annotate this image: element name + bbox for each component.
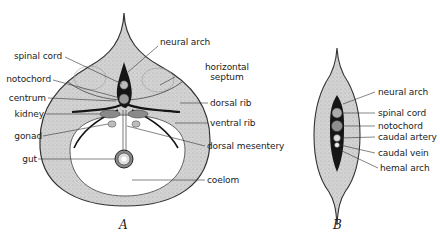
label-notochord-b: notochord [378,121,423,131]
notochord-shape [119,94,129,104]
kidney-left [100,110,120,118]
label-centrum: centrum [2,93,46,103]
gut-lumen [121,156,126,161]
caption-a: A [119,218,128,232]
label-dorsal-rib: dorsal rib [210,98,251,108]
vertebrate-cross-section-figure: spinal cord notochord centrum kidney gon… [0,0,440,241]
label-hemal-arch: hemal arch [380,163,430,173]
gonad-left [108,121,116,127]
label-ventral-rib: ventral rib [210,118,256,128]
kidney-right [128,110,148,118]
tail-spinal-cord [332,108,342,118]
spinal-cord-shape [120,81,128,89]
tail-notochord [332,121,343,132]
tail-caudal-artery [334,135,341,142]
label-notochord-a: notochord [2,74,51,84]
label-caudal-vein: caudal vein [378,148,429,158]
label-dorsal-mesentery: dorsal mesentery [207,141,284,151]
label-horizontal-septum: horizontal septum [205,62,249,82]
label-neural-arch-a: neural arch [160,37,210,47]
label-caudal-artery: caudal artery [378,132,437,142]
label-spinal-cord-a: spinal cord [2,51,62,61]
section-b-tail [314,48,360,225]
label-horizontal-septum-line1: horizontal [205,62,249,72]
label-neural-arch-b: neural arch [378,87,428,97]
label-coelom: coelom [207,175,239,185]
label-spinal-cord-b: spinal cord [378,108,426,118]
label-gonad: gonad [2,131,42,141]
label-kidney: kidney [2,109,44,119]
label-gut: gut [2,154,37,164]
label-horizontal-septum-line2: septum [205,72,249,82]
caption-b: B [333,218,342,232]
tail-caudal-vein [335,143,340,148]
gonad-right [132,121,140,127]
